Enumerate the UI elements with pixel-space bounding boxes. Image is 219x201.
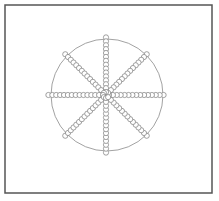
spoke-135-deg	[63, 52, 107, 96]
spoke-180-deg	[46, 92, 106, 97]
bead	[106, 95, 111, 100]
spoke-45-deg	[106, 52, 150, 96]
spoke-90-deg	[103, 35, 108, 95]
bead-spokes	[46, 35, 166, 155]
diagram-canvas	[0, 0, 219, 201]
spoke-0-deg	[106, 92, 166, 97]
spoke-315-deg	[106, 95, 150, 139]
spoke-225-deg	[63, 95, 107, 139]
spoke-270-deg	[103, 95, 108, 155]
